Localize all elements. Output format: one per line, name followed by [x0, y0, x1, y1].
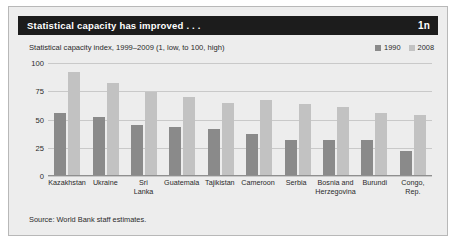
bar-group	[317, 63, 355, 176]
bar-group	[394, 63, 432, 176]
legend-item-2008: 2008	[409, 43, 434, 52]
bar-1990	[246, 134, 258, 176]
chart-container: Statistical capacity index, 1999–2009 (1…	[18, 37, 438, 205]
bar-group	[240, 63, 278, 176]
legend-label-2008: 2008	[418, 43, 434, 52]
x-axis-category-label: Tajikistan	[201, 179, 239, 196]
bar-group	[278, 63, 316, 176]
legend-swatch-2008	[409, 45, 415, 51]
page-title: Statistical capacity has improved . . .	[27, 20, 201, 31]
x-axis-category-label: Congo,Rep.	[394, 179, 432, 196]
y-axis-tick-label: 100	[31, 59, 44, 68]
x-axis-category-label: Cameroon	[239, 179, 277, 196]
bar-1990	[54, 113, 66, 176]
x-axis-category-label: Burundi	[356, 179, 394, 196]
bar-group	[86, 63, 124, 176]
bar-1990	[169, 127, 181, 176]
bar-group	[202, 63, 240, 176]
bar-1990	[285, 140, 297, 176]
x-axis-category-label: Bosnia andHerzegovina	[315, 179, 355, 196]
bar-2008	[337, 107, 349, 176]
x-axis-category-label: Kazakhstan	[48, 179, 86, 196]
bar-1990	[208, 129, 220, 176]
x-axis-category-label: Guatemala	[163, 179, 201, 196]
chart-legend: 1990 2008	[375, 43, 434, 52]
bar-2008	[414, 115, 426, 176]
bar-1990	[131, 125, 143, 176]
bar-1990	[361, 140, 373, 176]
bar-2008	[107, 83, 119, 176]
legend-swatch-1990	[375, 45, 381, 51]
bar-group	[355, 63, 393, 176]
bar-2008	[183, 97, 195, 176]
gridline: 0	[48, 176, 432, 177]
bar-2008	[299, 104, 311, 176]
source-note: Source: World Bank staff estimates.	[29, 215, 146, 224]
bar-2008	[260, 100, 272, 176]
bar-2008	[222, 103, 234, 176]
y-axis-tick-label: 50	[36, 115, 44, 124]
bar-1990	[93, 117, 105, 176]
bar-2008	[145, 92, 157, 176]
bar-group	[48, 63, 86, 176]
x-axis-labels: KazakhstanUkraineSriLankaGuatemalaTajiki…	[48, 179, 432, 196]
bar-group	[125, 63, 163, 176]
bar-group	[163, 63, 201, 176]
figure-number: 1n	[418, 20, 430, 31]
bar-1990	[400, 151, 412, 176]
plot-area: 0255075100	[48, 63, 432, 176]
y-axis-tick-label: 75	[36, 87, 44, 96]
axis-baseline	[48, 175, 432, 176]
figure-header: Statistical capacity has improved . . . …	[18, 16, 438, 35]
chart-subtitle: Statistical capacity index, 1999–2009 (1…	[29, 43, 224, 52]
y-axis-tick-label: 0	[40, 172, 44, 181]
bar-2008	[68, 72, 80, 176]
legend-item-1990: 1990	[375, 43, 400, 52]
x-axis-category-label: Serbia	[277, 179, 315, 196]
legend-label-1990: 1990	[384, 43, 400, 52]
bar-1990	[323, 140, 335, 176]
bar-groups	[48, 63, 432, 176]
bar-2008	[375, 113, 387, 176]
x-axis-category-label: SriLanka	[124, 179, 162, 196]
y-axis-tick-label: 25	[36, 143, 44, 152]
x-axis-category-label: Ukraine	[86, 179, 124, 196]
figure-panel: Statistical capacity has improved . . . …	[8, 6, 448, 236]
